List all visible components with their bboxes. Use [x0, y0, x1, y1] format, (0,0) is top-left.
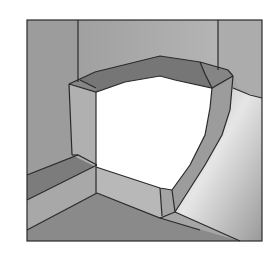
render-canvas: [0, 0, 277, 256]
3d-render-figure: [0, 0, 277, 256]
